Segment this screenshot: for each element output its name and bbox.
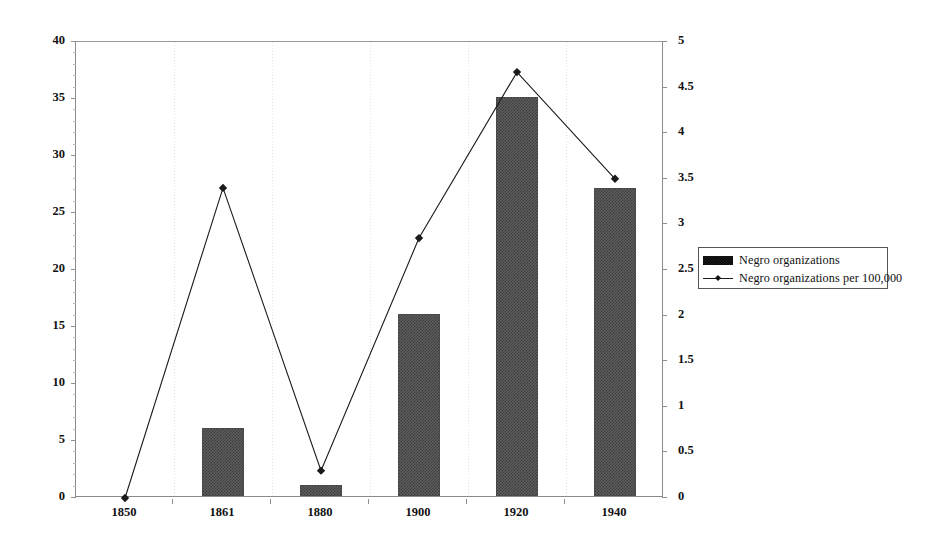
left-axis-minor-tick — [73, 417, 76, 418]
left-axis-minor-tick — [73, 144, 76, 145]
left-axis-tick-label: 25 — [31, 205, 65, 218]
right-axis-tick-label: 1.5 — [678, 353, 694, 366]
x-axis-tick-mark — [172, 499, 173, 504]
left-axis-minor-tick — [73, 178, 76, 179]
left-axis-minor-tick — [73, 132, 76, 133]
right-axis-tick-label: 1 — [678, 399, 684, 412]
line-diamond-swatch-icon — [703, 274, 733, 283]
x-axis-tick-label: 1940 — [574, 505, 654, 520]
left-axis-minor-tick — [73, 189, 76, 190]
left-axis-minor-tick — [73, 75, 76, 76]
left-axis-tick-mark — [71, 497, 76, 498]
left-axis-tick-mark — [71, 155, 76, 156]
right-axis-tick-mark — [662, 497, 667, 498]
chart-figure: 0510152025303540 00.511.522.533.544.55 1… — [0, 0, 926, 542]
x-axis-tick-mark — [270, 499, 271, 504]
left-axis-minor-tick — [73, 201, 76, 202]
left-axis-minor-tick — [73, 429, 76, 430]
right-axis-tick-mark — [662, 132, 667, 133]
left-axis-minor-tick — [73, 166, 76, 167]
right-axis-tick-mark — [662, 360, 667, 361]
chart-legend: Negro organizations Negro organizations … — [698, 247, 888, 289]
left-axis-tick-mark — [71, 98, 76, 99]
legend-item-line: Negro organizations per 100,000 — [703, 269, 883, 287]
left-axis-minor-tick — [73, 280, 76, 281]
right-axis-tick-mark — [662, 451, 667, 452]
data-point-marker — [219, 184, 227, 192]
left-axis-minor-tick — [73, 246, 76, 247]
data-point-marker — [415, 234, 423, 242]
line-path — [125, 72, 615, 498]
data-point-marker — [121, 494, 129, 502]
left-axis-minor-tick — [73, 303, 76, 304]
left-axis-minor-tick — [73, 315, 76, 316]
left-axis-minor-tick — [73, 451, 76, 452]
plot-area — [75, 41, 663, 497]
right-axis-tick-mark — [662, 269, 667, 270]
left-axis-minor-tick — [73, 235, 76, 236]
x-axis-tick-label: 1880 — [280, 505, 360, 520]
x-axis-tick-mark — [466, 499, 467, 504]
bar-swatch-icon — [703, 256, 733, 265]
left-axis-minor-tick — [73, 87, 76, 88]
left-axis-tick-label: 20 — [31, 262, 65, 275]
left-axis-minor-tick — [73, 292, 76, 293]
left-axis-tick-mark — [71, 383, 76, 384]
left-axis-minor-tick — [73, 406, 76, 407]
data-point-marker — [317, 466, 325, 474]
right-axis-tick-mark — [662, 406, 667, 407]
left-axis-tick-mark — [71, 326, 76, 327]
right-axis-tick-mark — [662, 41, 667, 42]
left-axis-minor-tick — [73, 52, 76, 53]
right-axis-tick-label: 4.5 — [678, 80, 694, 93]
right-axis-tick-label: 0.5 — [678, 444, 694, 457]
left-axis-minor-tick — [73, 372, 76, 373]
left-axis-minor-tick — [73, 337, 76, 338]
x-axis-tick-label: 1900 — [378, 505, 458, 520]
left-axis-tick-label: 0 — [31, 490, 65, 503]
left-axis-tick-label: 30 — [31, 148, 65, 161]
x-axis-tick-mark — [564, 499, 565, 504]
left-axis-minor-tick — [73, 223, 76, 224]
legend-item-label: Negro organizations — [739, 253, 840, 268]
x-axis-tick-mark — [368, 499, 369, 504]
left-axis-tick-mark — [71, 269, 76, 270]
x-axis-tick-label: 1861 — [182, 505, 262, 520]
right-axis-tick-label: 4 — [678, 125, 684, 138]
right-axis-tick-label: 2 — [678, 308, 684, 321]
left-axis-minor-tick — [73, 258, 76, 259]
right-axis-tick-label: 2.5 — [678, 262, 694, 275]
left-axis-minor-tick — [73, 109, 76, 110]
right-axis-tick-label: 3.5 — [678, 171, 694, 184]
x-axis-tick-label: 1920 — [476, 505, 556, 520]
left-axis-minor-tick — [73, 463, 76, 464]
left-axis-tick-label: 35 — [31, 91, 65, 104]
right-axis-tick-mark — [662, 87, 667, 88]
line-series-negro-organizations-per-100000 — [76, 42, 664, 498]
right-axis-tick-label: 3 — [678, 216, 684, 229]
left-axis-tick-label: 5 — [31, 433, 65, 446]
right-axis-tick-mark — [662, 315, 667, 316]
left-axis-tick-mark — [71, 440, 76, 441]
right-axis-tick-mark — [662, 223, 667, 224]
left-axis-minor-tick — [73, 394, 76, 395]
left-axis-tick-mark — [71, 41, 76, 42]
left-axis-minor-tick — [73, 121, 76, 122]
right-axis-tick-mark — [662, 178, 667, 179]
x-axis-tick-label: 1850 — [84, 505, 164, 520]
left-axis-minor-tick — [73, 474, 76, 475]
left-axis-tick-label: 10 — [31, 376, 65, 389]
left-axis-tick-mark — [71, 212, 76, 213]
left-axis-minor-tick — [73, 64, 76, 65]
right-axis-tick-label: 5 — [678, 34, 684, 47]
left-axis-minor-tick — [73, 349, 76, 350]
legend-item-label: Negro organizations per 100,000 — [739, 271, 902, 286]
right-axis-tick-label: 0 — [678, 490, 684, 503]
left-axis-minor-tick — [73, 486, 76, 487]
left-axis-tick-label: 40 — [31, 34, 65, 47]
legend-item-bar: Negro organizations — [703, 251, 883, 269]
left-axis-minor-tick — [73, 360, 76, 361]
left-axis-tick-label: 15 — [31, 319, 65, 332]
